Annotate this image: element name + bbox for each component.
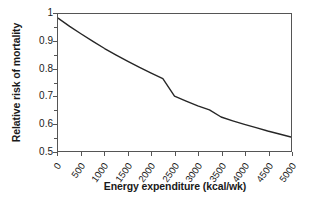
- x-axis-title: Energy expenditure (kcal/wk): [57, 180, 293, 192]
- x-axis-tick-labels: 0500100015002000250030003500400045005000: [0, 0, 310, 199]
- chart-figure: Relative risk of mortality 10.90.80.70.6…: [0, 0, 310, 199]
